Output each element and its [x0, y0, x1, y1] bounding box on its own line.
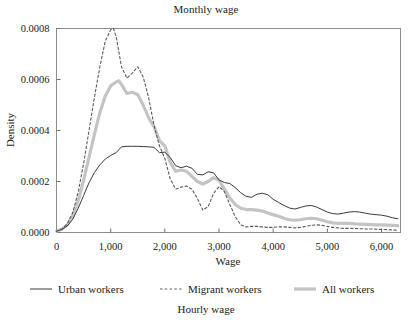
series-line	[57, 146, 398, 231]
y-tick-label: 0.0006	[21, 74, 50, 85]
x-axis-ticks: 01,0002,0003,0004,0005,0006,000	[54, 229, 393, 252]
y-axis-label: Density	[4, 112, 16, 147]
legend-label: All workers	[322, 283, 374, 295]
legend-label: Migrant workers	[188, 283, 262, 295]
x-tick-label: 6,000	[370, 241, 394, 252]
x-tick-label: 3,000	[207, 241, 231, 252]
series-curves	[57, 29, 398, 232]
y-axis-ticks: 0.00000.00020.00040.00060.0008	[21, 23, 61, 238]
chart-caption: Hourly wage	[0, 303, 412, 315]
chart-legend: Urban workersMigrant workersAll workers	[30, 283, 374, 295]
series-line	[57, 81, 398, 231]
y-tick-label: 0.0000	[21, 227, 50, 238]
density-chart-figure: Monthly wage 0.00000.00020.00040.00060.0…	[0, 0, 412, 324]
series-line	[57, 29, 398, 232]
x-tick-label: 2,000	[153, 241, 177, 252]
x-axis-label: Wage	[216, 255, 241, 267]
y-tick-label: 0.0004	[21, 125, 51, 136]
y-tick-label: 0.0002	[21, 176, 50, 187]
x-tick-label: 4,000	[261, 241, 285, 252]
x-tick-label: 0	[54, 241, 59, 252]
y-tick-label: 0.0008	[21, 23, 50, 34]
x-tick-label: 1,000	[99, 241, 123, 252]
x-tick-label: 5,000	[316, 241, 340, 252]
legend-label: Urban workers	[58, 283, 124, 295]
plot-area: 0.00000.00020.00040.00060.0008 01,0002,0…	[0, 0, 412, 324]
